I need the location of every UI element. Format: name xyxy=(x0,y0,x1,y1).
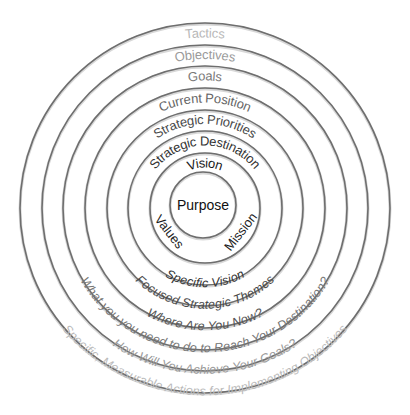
label-vision: Vision xyxy=(185,155,225,173)
center-label-purpose: Purpose xyxy=(177,197,229,213)
label-vision-text: Vision xyxy=(185,155,225,173)
label-measurable-actions: Specific, Measurable Actions for Impleme… xyxy=(60,322,350,398)
label-specific-vision: Specific Vision xyxy=(163,267,246,291)
label-objectives: Objectives xyxy=(173,47,237,65)
concentric-strategy-diagram: Purpose Vision Values Mission Strategic … xyxy=(0,0,410,415)
label-measurable-actions-text: Specific, Measurable Actions for Impleme… xyxy=(60,322,350,398)
label-goals: Goals xyxy=(187,68,223,84)
label-tactics: Tactics xyxy=(184,25,226,41)
label-specific-vision-text: Specific Vision xyxy=(163,267,246,291)
label-objectives-text: Objectives xyxy=(173,47,237,65)
label-goals-text: Goals xyxy=(187,68,223,84)
label-tactics-text: Tactics xyxy=(184,25,226,41)
